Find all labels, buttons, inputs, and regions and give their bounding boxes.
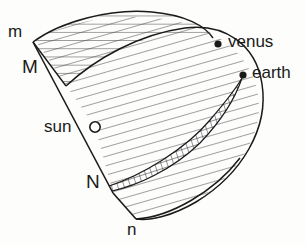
label-earth: earth <box>252 64 291 81</box>
label-n: n <box>127 221 136 238</box>
label-N: N <box>86 172 100 191</box>
label-m: m <box>8 23 22 40</box>
earth-marker <box>239 71 246 78</box>
label-sun: sun <box>44 118 71 135</box>
label-M: M <box>22 57 38 76</box>
sun-marker <box>90 122 100 132</box>
venus-marker <box>214 40 221 47</box>
astronomical-diagram: m M sun N n venus earth <box>0 0 306 244</box>
label-venus: venus <box>228 33 273 50</box>
